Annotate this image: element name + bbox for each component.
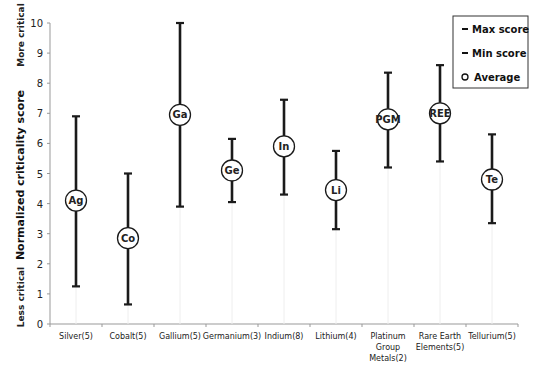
y-axis: 012345678910 bbox=[30, 18, 50, 330]
y-axis-title: Normalized criticality score bbox=[14, 90, 27, 260]
y-tick-label: 10 bbox=[30, 18, 43, 29]
x-category-label: Silver(5) bbox=[59, 332, 93, 341]
average-marker-label: PGM bbox=[375, 114, 401, 125]
y-tick-label: 6 bbox=[37, 138, 43, 149]
y-tick-label: 8 bbox=[37, 78, 43, 89]
error-bar-ree: REE bbox=[429, 65, 451, 324]
error-bar-ag: Ag bbox=[66, 116, 87, 324]
average-marker-label: REE bbox=[429, 108, 451, 119]
error-bar-ge: Ge bbox=[222, 139, 243, 324]
y-tick-label: 5 bbox=[37, 169, 43, 180]
average-marker-label: Te bbox=[486, 174, 498, 185]
legend-min-score: Min score bbox=[472, 48, 527, 59]
error-bar-co: Co bbox=[118, 174, 139, 325]
average-marker-label: Ga bbox=[173, 109, 188, 120]
legend: Max score Min score Average bbox=[453, 16, 529, 88]
x-category-label: Lithium(4) bbox=[315, 332, 356, 341]
average-circle-icon bbox=[462, 74, 468, 80]
average-marker-label: Ge bbox=[225, 165, 240, 176]
x-category-label: Germanium(3) bbox=[203, 332, 261, 341]
y-tick-label: 7 bbox=[37, 108, 43, 119]
y-tick-label: 3 bbox=[37, 229, 43, 240]
axis-labels: Normalized criticality score More critic… bbox=[14, 3, 27, 327]
y-tick-label: 9 bbox=[37, 48, 43, 59]
x-category-label: PlatinumGroupMetals(2) bbox=[369, 332, 407, 363]
average-marker-label: Li bbox=[331, 185, 341, 196]
legend-average: Average bbox=[474, 72, 521, 83]
error-bar-te: Te bbox=[482, 134, 503, 324]
error-bars: AgCoGaGeInLiPGMREETe bbox=[66, 23, 503, 324]
error-bar-pgm: PGM bbox=[375, 73, 401, 324]
x-category-label: Indium(8) bbox=[265, 332, 304, 341]
y-axis-annotation-top: More critical bbox=[16, 3, 26, 67]
legend-max-score: Max score bbox=[472, 24, 529, 35]
y-tick-label: 0 bbox=[37, 319, 43, 330]
x-category-label: Gallium(5) bbox=[159, 332, 201, 341]
error-bar-li: Li bbox=[326, 151, 347, 324]
average-marker-label: Ag bbox=[69, 195, 84, 206]
average-marker-label: In bbox=[279, 141, 290, 152]
average-marker-label: Co bbox=[121, 233, 135, 244]
criticality-chart: 012345678910 Silver(5)Cobalt(5)Gallium(5… bbox=[0, 0, 541, 371]
error-bar-in: In bbox=[274, 100, 295, 324]
y-axis-annotation-bottom: Less critical bbox=[16, 267, 26, 327]
error-bar-ga: Ga bbox=[170, 23, 191, 324]
y-tick-label: 2 bbox=[37, 259, 43, 270]
y-tick-label: 1 bbox=[37, 289, 43, 300]
x-category-label: Tellurium(5) bbox=[467, 332, 516, 341]
x-axis: Silver(5)Cobalt(5)Gallium(5)Germanium(3)… bbox=[50, 324, 518, 363]
x-category-label: Cobalt(5) bbox=[109, 332, 146, 341]
x-category-label: Rare EarthElements(5) bbox=[416, 332, 465, 352]
y-tick-label: 4 bbox=[37, 199, 43, 210]
